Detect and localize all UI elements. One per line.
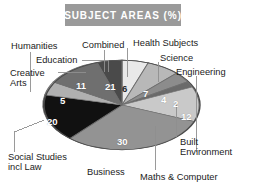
value-engineering: 4 bbox=[161, 94, 166, 105]
label-maths-computer: Maths & Computer bbox=[140, 172, 218, 182]
value-maths-computer: 12 bbox=[181, 111, 192, 122]
label-creative-arts: Creative Arts bbox=[10, 68, 56, 89]
label-combined: Combined bbox=[82, 40, 124, 50]
value-creative-arts: 5 bbox=[60, 95, 65, 106]
label-humanities: Humanities bbox=[11, 41, 58, 51]
chart-root: SUBJECT AREAS (%) bbox=[0, 0, 253, 192]
value-built-environment: 2 bbox=[173, 98, 178, 109]
label-social-studies: Social Studies incl Law bbox=[8, 152, 80, 173]
label-business: Business bbox=[87, 167, 125, 177]
value-science: 7 bbox=[143, 88, 148, 99]
value-social-studies: 20 bbox=[47, 116, 58, 127]
label-engineering: Engineering bbox=[176, 67, 226, 77]
leader-line-social-studies bbox=[14, 120, 44, 152]
label-health-subjects: Health Subjects bbox=[133, 38, 198, 48]
label-education: Education bbox=[36, 55, 77, 65]
label-built-environment: Built Environment bbox=[180, 137, 242, 158]
value-health-subjects: 6 bbox=[122, 83, 127, 94]
label-science: Science bbox=[160, 53, 193, 63]
value-business: 30 bbox=[117, 136, 128, 147]
value-education: 11 bbox=[76, 80, 86, 91]
value-combined: 21 bbox=[105, 81, 116, 92]
